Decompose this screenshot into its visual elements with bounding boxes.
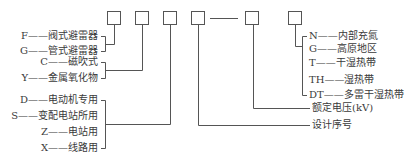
code-N-nitrogen: N——内部充氮 <box>309 30 378 42</box>
code-DT-thunder-tropic: DT——多雷干湿热带 <box>309 89 404 101</box>
box-1 <box>108 12 121 25</box>
code-C-magnetic-blow: C——磁吹式 <box>0 56 98 68</box>
box-3 <box>164 12 177 25</box>
code-Z-station: Z——电站用 <box>0 126 98 138</box>
code-TH-humid-tropic: TH——湿热带 <box>309 74 374 86</box>
box-2 <box>136 12 149 25</box>
code-S-substation: S——变配电站所用 <box>0 110 98 122</box>
code-Y-metal-oxide: Y——金属氧化物 <box>0 72 98 84</box>
rated-voltage-label: 额定电压(kV) <box>312 102 373 114</box>
design-serial-label: 设计序号 <box>312 119 352 131</box>
box-4 <box>192 12 205 25</box>
code-F-valve-arrester: F——阀式避雷器 <box>0 30 98 42</box>
code-D-motor: D——电动机专用 <box>0 94 98 106</box>
code-X-line: X——线路用 <box>0 142 98 154</box>
box-6 <box>289 12 302 25</box>
code-G-plateau: G——高原地区 <box>309 43 377 55</box>
box-5 <box>246 12 259 25</box>
code-T-dry-humid-tropic: T——干湿热带 <box>309 57 376 69</box>
